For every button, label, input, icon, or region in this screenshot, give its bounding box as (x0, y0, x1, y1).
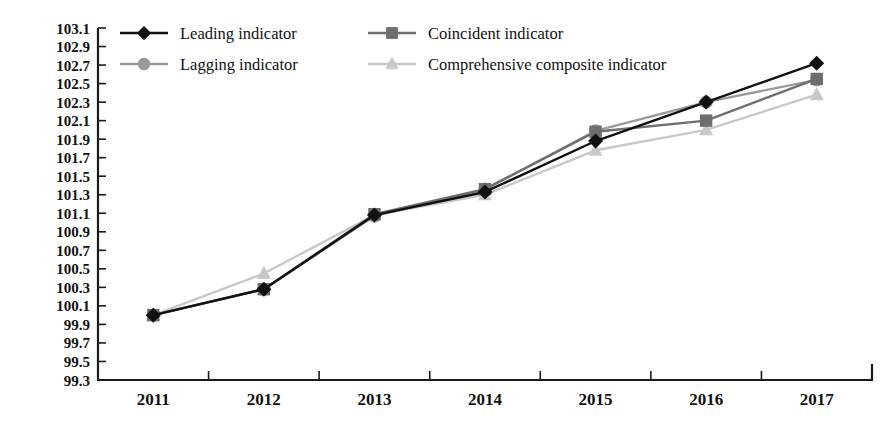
y-tick-label: 101.9 (56, 132, 90, 148)
y-tick-label: 101.5 (56, 169, 90, 185)
y-tick-label: 102.3 (56, 95, 90, 111)
y-tick-label: 101.3 (56, 187, 90, 203)
x-tick-label: 2014 (468, 390, 503, 409)
x-tick-label: 2013 (357, 390, 391, 409)
legend-item-3[interactable]: Comprehensive composite indicator (368, 55, 667, 74)
legend-item-0[interactable]: Leading indicator (120, 24, 297, 43)
legend-label: Leading indicator (180, 24, 297, 43)
series-line (153, 95, 816, 315)
y-tick-label: 101.7 (56, 150, 90, 166)
legend-item-1[interactable]: Coincident indicator (368, 24, 564, 43)
legend-label: Comprehensive composite indicator (428, 55, 667, 74)
y-tick-label: 101.1 (56, 206, 90, 222)
triangle-marker (257, 266, 271, 279)
x-tick-label: 2017 (800, 390, 835, 409)
x-tick-label: 2011 (137, 390, 170, 409)
y-tick-label: 103.1 (56, 21, 90, 37)
legend-label: Coincident indicator (428, 24, 564, 43)
diamond-marker (137, 26, 151, 40)
triangle-marker (810, 87, 824, 100)
y-tick-label: 102.9 (56, 39, 90, 55)
x-tick-label: 2016 (689, 390, 723, 409)
chart-legend: Leading indicatorCoincident indicatorLag… (120, 24, 667, 74)
series-layer (146, 56, 824, 323)
y-tick-label: 100.3 (56, 280, 90, 296)
y-tick-label: 99.5 (64, 354, 90, 370)
y-tick-label: 99.3 (64, 373, 90, 389)
y-tick-label: 99.9 (64, 317, 90, 333)
y-tick-label: 100.5 (56, 261, 90, 277)
series-diamond (146, 56, 824, 323)
diamond-marker (699, 95, 714, 110)
square-marker (811, 73, 823, 85)
chart-canvas: 103.1102.9102.7102.5102.3102.1101.9101.7… (0, 0, 895, 427)
x-axis-ticks: 2011201220132014201520162017 (137, 371, 834, 409)
y-tick-label: 100.9 (56, 224, 90, 240)
square-marker (386, 27, 398, 39)
y-tick-label: 102.5 (56, 76, 90, 92)
x-tick-label: 2012 (247, 390, 281, 409)
legend-item-2[interactable]: Lagging indicator (120, 55, 298, 74)
y-tick-label: 100.1 (56, 298, 90, 314)
circle-marker (138, 58, 151, 71)
y-tick-label: 100.7 (56, 243, 90, 259)
diamond-marker (809, 56, 824, 71)
y-tick-label: 99.7 (64, 335, 91, 351)
series-triangle (146, 87, 823, 321)
legend-label: Lagging indicator (180, 55, 298, 74)
y-tick-label: 102.1 (56, 113, 90, 129)
line-chart: 103.1102.9102.7102.5102.3102.1101.9101.7… (0, 0, 895, 427)
square-marker (700, 114, 712, 126)
y-tick-label: 102.7 (56, 58, 90, 74)
axis-frame (98, 28, 872, 380)
x-tick-label: 2015 (579, 390, 613, 409)
